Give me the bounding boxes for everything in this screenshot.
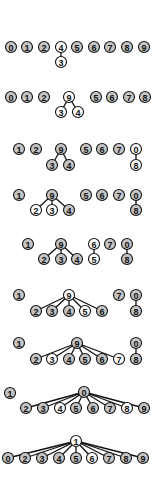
node-8: 8 — [131, 160, 142, 171]
node-2: 2 — [31, 205, 42, 216]
node-label: 6 — [99, 355, 104, 365]
node-8: 8 — [140, 92, 151, 103]
node-4: 4 — [56, 42, 67, 53]
node-label: 3 — [58, 108, 63, 118]
node-6: 6 — [107, 92, 118, 103]
node-5: 5 — [80, 354, 91, 365]
node-2: 2 — [31, 306, 42, 317]
node-1: 1 — [5, 388, 16, 399]
node-label: 9 — [58, 240, 63, 250]
node-label: 1 — [16, 191, 21, 201]
node-3: 3 — [56, 254, 67, 265]
node-label: 4 — [57, 404, 62, 414]
node-label: 3 — [49, 206, 54, 216]
node-label: 9 — [74, 339, 79, 349]
node-4: 4 — [73, 107, 84, 118]
step-6: 1923456708 — [14, 290, 142, 317]
node-label: 2 — [23, 404, 28, 414]
step-3: 1293456708 — [14, 144, 142, 171]
node-label: 5 — [73, 454, 78, 464]
node-1: 1 — [14, 190, 25, 201]
node-label: 8 — [133, 307, 138, 317]
node-label: 6 — [99, 191, 104, 201]
node-label: 8 — [142, 93, 147, 103]
node-6: 6 — [89, 239, 100, 250]
node-6: 6 — [97, 144, 108, 155]
node-8: 8 — [121, 453, 132, 464]
node-7: 7 — [104, 453, 115, 464]
node-6: 6 — [87, 453, 98, 464]
node-label: 4 — [66, 161, 71, 171]
node-2: 2 — [31, 144, 42, 155]
node-label: 4 — [75, 108, 80, 118]
node-6: 6 — [88, 403, 99, 414]
node-0: 0 — [122, 239, 133, 250]
node-5: 5 — [91, 92, 102, 103]
node-0: 0 — [6, 42, 17, 53]
node-label: 4 — [74, 255, 79, 265]
node-6: 6 — [97, 354, 108, 365]
node-4: 4 — [55, 403, 66, 414]
node-label: 8 — [124, 255, 129, 265]
node-label: 3 — [49, 161, 54, 171]
node-label: 5 — [73, 404, 78, 414]
node-7: 7 — [124, 92, 135, 103]
node-5: 5 — [72, 42, 83, 53]
node-4: 4 — [64, 205, 75, 216]
node-9: 9 — [56, 239, 67, 250]
step-1: 0124356789 — [6, 42, 150, 68]
node-label: 8 — [124, 404, 129, 414]
node-4: 4 — [64, 354, 75, 365]
node-label: 1 — [16, 339, 21, 349]
node-label: 0 — [133, 291, 138, 301]
node-label: 4 — [66, 206, 71, 216]
node-label: 6 — [99, 145, 104, 155]
node-5: 5 — [71, 453, 82, 464]
node-label: 7 — [126, 93, 131, 103]
node-2: 2 — [39, 254, 50, 265]
node-label: 0 — [124, 240, 129, 250]
node-label: 6 — [91, 240, 96, 250]
node-4: 4 — [64, 306, 75, 317]
node-label: 3 — [49, 355, 54, 365]
node-4: 4 — [72, 254, 83, 265]
node-label: 7 — [107, 404, 112, 414]
node-label: 5 — [83, 145, 88, 155]
node-8: 8 — [131, 354, 142, 365]
node-label: 8 — [133, 161, 138, 171]
node-label: 1 — [24, 93, 29, 103]
node-0: 0 — [131, 144, 142, 155]
node-3: 3 — [37, 453, 48, 464]
node-1: 1 — [14, 144, 25, 155]
node-3: 3 — [47, 306, 58, 317]
step-2: 0129345678 — [6, 92, 151, 118]
node-label: 8 — [133, 355, 138, 365]
node-label: 0 — [81, 388, 86, 398]
node-label: 9 — [66, 291, 71, 301]
node-2: 2 — [39, 92, 50, 103]
node-label: 0 — [8, 43, 13, 53]
node-label: 5 — [82, 307, 87, 317]
node-9: 9 — [64, 92, 75, 103]
diagram-canvas: 0124356789012934567812934567081923456708… — [0, 0, 162, 483]
step-4: 1923456708 — [14, 190, 142, 216]
node-label: 9 — [141, 404, 146, 414]
node-5: 5 — [89, 254, 100, 265]
node-8: 8 — [122, 42, 133, 53]
node-label: 6 — [109, 93, 114, 103]
node-label: 7 — [116, 291, 121, 301]
node-7: 7 — [105, 239, 116, 250]
node-label: 3 — [58, 58, 63, 68]
node-label: 2 — [41, 255, 46, 265]
node-label: 8 — [124, 43, 129, 53]
node-4: 4 — [54, 453, 65, 464]
node-label: 2 — [33, 206, 38, 216]
node-label: 1 — [16, 291, 21, 301]
node-1: 1 — [22, 92, 33, 103]
node-label: 0 — [133, 145, 138, 155]
node-2: 2 — [21, 403, 32, 414]
forest-diagram: 0124356789012934567812934567081923456708… — [0, 0, 162, 483]
node-3: 3 — [56, 57, 67, 68]
node-label: 8 — [133, 206, 138, 216]
node-label: 0 — [133, 339, 138, 349]
